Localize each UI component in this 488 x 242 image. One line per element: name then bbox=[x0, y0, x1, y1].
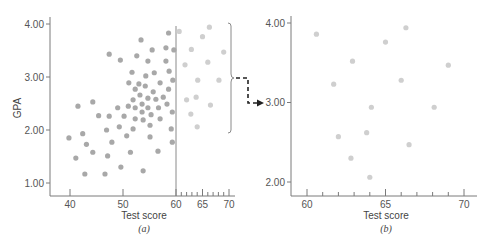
data-point bbox=[189, 47, 194, 52]
data-point bbox=[129, 70, 134, 75]
data-point bbox=[143, 73, 148, 78]
data-point bbox=[195, 124, 200, 129]
data-point bbox=[145, 59, 150, 64]
data-point bbox=[121, 114, 126, 119]
data-point bbox=[141, 168, 146, 173]
data-point bbox=[164, 101, 169, 106]
data-point bbox=[336, 134, 341, 139]
panel-a-caption: (a) bbox=[138, 223, 150, 235]
data-point bbox=[137, 92, 142, 97]
data-point bbox=[403, 25, 408, 30]
data-point bbox=[109, 140, 114, 145]
panel-a-y-ticks: 1.002.003.004.00 bbox=[25, 19, 50, 189]
y-tick-label: 4.00 bbox=[266, 18, 286, 29]
data-point bbox=[80, 131, 85, 136]
data-point bbox=[163, 59, 168, 64]
data-point bbox=[117, 124, 122, 129]
y-tick-label: 4.00 bbox=[25, 19, 45, 30]
data-point bbox=[102, 171, 107, 176]
data-point bbox=[184, 97, 189, 102]
data-point bbox=[156, 105, 161, 110]
data-point bbox=[126, 80, 131, 85]
data-point bbox=[118, 57, 123, 62]
y-tick-label: 1.00 bbox=[25, 178, 45, 189]
data-point bbox=[128, 150, 133, 155]
x-tick-label: 65 bbox=[197, 199, 209, 210]
data-point bbox=[66, 135, 71, 140]
data-point bbox=[153, 97, 158, 102]
panel-b-x-ticks: 606570 bbox=[301, 189, 470, 210]
data-point bbox=[314, 32, 319, 37]
data-point bbox=[177, 29, 182, 34]
data-point bbox=[141, 117, 146, 122]
data-point bbox=[145, 96, 150, 101]
data-point bbox=[182, 62, 187, 67]
data-point bbox=[171, 47, 176, 52]
data-point bbox=[143, 83, 148, 88]
data-point bbox=[147, 123, 152, 128]
data-point bbox=[170, 140, 175, 145]
data-point bbox=[221, 49, 226, 54]
data-point bbox=[115, 105, 120, 110]
data-point bbox=[152, 70, 157, 75]
data-point bbox=[446, 63, 451, 68]
panel-b-caption: (b) bbox=[380, 223, 392, 235]
y-tick-label: 2.00 bbox=[25, 125, 45, 136]
panel-b-scatter: 2.003.004.00 606570 Test score (b) bbox=[266, 16, 477, 235]
data-point bbox=[166, 87, 171, 92]
panel-b-y-ticks: 2.003.004.00 bbox=[266, 18, 291, 188]
data-point bbox=[369, 105, 374, 110]
data-point bbox=[169, 126, 174, 131]
x-tick-label: 40 bbox=[64, 199, 76, 210]
data-point bbox=[158, 116, 163, 121]
data-point bbox=[205, 60, 210, 65]
data-point bbox=[124, 133, 129, 138]
data-point bbox=[348, 156, 353, 161]
data-point bbox=[167, 69, 172, 74]
data-point bbox=[207, 25, 212, 30]
data-point bbox=[84, 142, 89, 147]
data-point bbox=[331, 82, 336, 87]
group-bracket bbox=[228, 23, 234, 133]
data-point bbox=[200, 34, 205, 39]
data-point bbox=[138, 37, 143, 42]
panel-a-scatter: 1.002.003.004.00 4050606570 GPA Test sco… bbox=[12, 17, 235, 235]
data-point bbox=[406, 142, 411, 147]
x-tick-label: 60 bbox=[301, 199, 313, 210]
x-tick-label: 70 bbox=[458, 199, 470, 210]
data-point bbox=[90, 150, 95, 155]
panel-a-x-axis-label: Test score bbox=[121, 210, 167, 221]
data-point bbox=[130, 97, 135, 102]
data-point bbox=[107, 52, 112, 57]
panel-a-x-ticks: 4050606570 bbox=[64, 189, 235, 210]
y-tick-label: 2.00 bbox=[266, 177, 286, 188]
data-point bbox=[133, 87, 138, 92]
data-point bbox=[195, 78, 200, 83]
data-point bbox=[73, 155, 78, 160]
x-tick-label: 70 bbox=[223, 199, 235, 210]
x-tick-label: 60 bbox=[170, 199, 182, 210]
data-point bbox=[90, 99, 95, 104]
data-point bbox=[139, 101, 144, 106]
panel-a-y-axis-label: GPA bbox=[12, 97, 23, 118]
data-point bbox=[432, 105, 437, 110]
y-tick-label: 3.00 bbox=[266, 97, 286, 108]
data-point bbox=[133, 116, 138, 121]
data-point bbox=[170, 109, 175, 114]
data-point bbox=[158, 80, 163, 85]
data-point bbox=[188, 112, 193, 117]
data-point bbox=[82, 171, 87, 176]
data-point bbox=[147, 134, 152, 139]
data-point bbox=[208, 102, 213, 107]
y-tick-label: 3.00 bbox=[25, 72, 45, 83]
panel-a-data-points bbox=[66, 25, 226, 177]
data-point bbox=[105, 153, 110, 158]
figure: 1.002.003.004.00 4050606570 GPA Test sco… bbox=[0, 0, 488, 242]
data-point bbox=[96, 113, 101, 118]
panel-b-data-points bbox=[314, 25, 451, 180]
x-tick-label: 65 bbox=[380, 199, 392, 210]
data-point bbox=[130, 126, 135, 131]
data-point bbox=[150, 47, 155, 52]
data-point bbox=[134, 53, 139, 58]
data-point bbox=[107, 114, 112, 119]
